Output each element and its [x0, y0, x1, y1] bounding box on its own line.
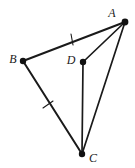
segment-dc	[82, 62, 83, 154]
segment-group	[23, 22, 125, 154]
vertex-label-b: B	[9, 52, 17, 66]
vertex-label-c: C	[89, 151, 98, 165]
vertex-label-a: A	[107, 6, 116, 20]
vertex-label-group: A B C D	[9, 6, 116, 165]
vertex-dot-b	[20, 58, 26, 64]
segment-bc	[23, 61, 82, 154]
vertex-dot-group	[20, 19, 129, 158]
vertex-dot-c	[79, 151, 85, 157]
figure-canvas: A B C D	[0, 0, 135, 168]
tick-mark-group	[43, 34, 73, 108]
geometry-figure: A B C D	[0, 0, 135, 168]
vertex-label-d: D	[66, 53, 76, 67]
vertex-dot-a	[122, 19, 129, 26]
vertex-dot-d	[80, 59, 86, 65]
